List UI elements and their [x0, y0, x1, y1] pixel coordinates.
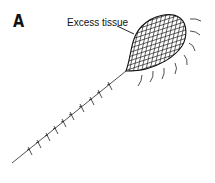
stitch-ticks	[27, 82, 112, 155]
motion-arcs	[138, 19, 201, 86]
figure: A Excess tissue	[0, 0, 215, 183]
callout-arrow	[117, 26, 134, 34]
diagram-drawing	[0, 0, 215, 183]
